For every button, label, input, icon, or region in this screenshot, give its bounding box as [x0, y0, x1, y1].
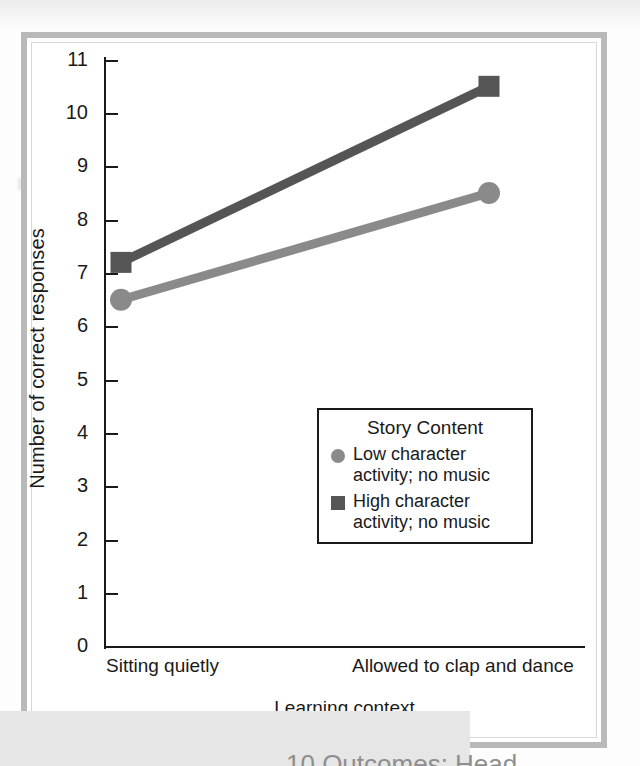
y-tick-mark-11: [104, 60, 118, 62]
y-tick-mark-8: [104, 220, 118, 222]
y-tick-5: 5: [0, 380, 104, 382]
y-tick-label: 11: [46, 49, 88, 69]
marker-low-left: [110, 289, 132, 311]
y-tick-10: 10: [0, 113, 104, 115]
series-line-low: [121, 193, 489, 300]
legend-title: Story Content: [319, 417, 531, 439]
y-tick-mark-4: [104, 433, 118, 435]
y-tick-label: 2: [46, 529, 88, 549]
y-tick-label: 8: [46, 209, 88, 229]
marker-low-right: [478, 182, 500, 204]
legend-item-label-line1: High character: [353, 491, 470, 511]
y-tick-3: 3: [0, 486, 104, 488]
legend-item-low[interactable]: Low character activity; no music: [331, 444, 531, 486]
y-tick-mark-2: [104, 540, 118, 542]
y-tick-9: 9: [0, 166, 104, 168]
page-caption-fragment: 10 Outcomes: Head: [286, 749, 616, 766]
y-tick-label: 6: [46, 315, 88, 335]
x-category-label-left: Sitting quietly: [106, 655, 219, 677]
y-axis-title: Number of correct responses: [26, 139, 49, 579]
y-tick-mark-7: [104, 273, 118, 275]
y-tick-mark-1: [104, 593, 118, 595]
y-tick-8: 8: [0, 220, 104, 222]
y-tick-label: 5: [46, 369, 88, 389]
y-tick-7: 7: [0, 273, 104, 275]
y-tick-label: 0: [46, 635, 88, 655]
legend-circle-icon: [331, 449, 345, 463]
y-tick-mark-5: [104, 380, 118, 382]
legend-item-label-line2: activity; no music: [353, 512, 490, 532]
legend-item-high[interactable]: High character activity; no music: [331, 491, 531, 533]
y-tick-mark-3: [104, 486, 118, 488]
x-axis-line: [104, 646, 585, 648]
y-tick-label: 10: [46, 102, 88, 122]
legend-item-label: High character activity; no music: [353, 491, 490, 533]
marker-high-left: [111, 252, 132, 273]
y-tick-4: 4: [0, 433, 104, 435]
y-tick-mark-6: [104, 326, 118, 328]
y-tick-6: 6: [0, 326, 104, 328]
y-tick-1: 1: [0, 593, 104, 595]
y-tick-label: 7: [46, 262, 88, 282]
legend-item-label: Low character activity; no music: [353, 444, 490, 486]
legend-square-icon: [331, 496, 345, 510]
y-tick-11: 11: [0, 60, 104, 62]
y-tick-label: 4: [46, 422, 88, 442]
y-tick-mark-10: [104, 113, 118, 115]
y-tick-mark-9: [104, 166, 118, 168]
legend-item-label-line2: activity; no music: [353, 465, 490, 485]
y-axis-line: [104, 57, 106, 649]
y-tick-label: 9: [46, 155, 88, 175]
series-line-high: [121, 86, 489, 262]
marker-high-right: [479, 76, 500, 97]
x-category-label-right: Allowed to clap and dance: [352, 655, 574, 677]
y-tick-label: 3: [46, 475, 88, 495]
line-chart: 11 10 9 8 7 6 5 4 3 2 1 0 Number of corr…: [0, 0, 640, 766]
y-tick-label: 1: [46, 582, 88, 602]
y-tick-2: 2: [0, 540, 104, 542]
legend-item-label-line1: Low character: [353, 444, 466, 464]
scanned-page: 11 10 9 8 7 6 5 4 3 2 1 0 Number of corr…: [0, 0, 640, 766]
legend: Story Content Low character activity; no…: [317, 408, 533, 544]
y-tick-0: 0: [0, 646, 104, 648]
